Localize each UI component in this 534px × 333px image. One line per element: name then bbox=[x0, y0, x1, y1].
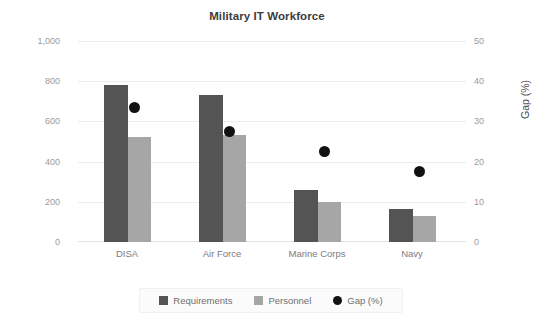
legend-swatch-personnel bbox=[254, 296, 263, 305]
chart-legend: Requirements Personnel Gap (%) bbox=[139, 288, 403, 313]
y-axis-right-tick: 20 bbox=[474, 157, 484, 167]
bar-personnel-marine-corps[interactable] bbox=[318, 202, 341, 242]
legend-item-personnel[interactable]: Personnel bbox=[254, 295, 311, 306]
y-axis-right-tick: 30 bbox=[474, 116, 484, 126]
y-axis-left-tick: 0 bbox=[55, 237, 60, 247]
y-axis-left-tick: 400 bbox=[45, 157, 60, 167]
legend-swatch-gap bbox=[333, 296, 342, 305]
bar-group-marine-corps bbox=[294, 41, 342, 242]
bar-requirements-air-force[interactable] bbox=[199, 95, 223, 242]
y-axis-left-tick: 600 bbox=[45, 116, 60, 126]
chart-container: Military IT Workforce Requirements or pe… bbox=[0, 0, 534, 333]
x-axis-tick-disa: DISA bbox=[80, 248, 174, 259]
gap-dot-air-force[interactable] bbox=[224, 126, 235, 137]
gap-dot-navy[interactable] bbox=[414, 166, 425, 177]
y-axis-right-tick: 50 bbox=[474, 36, 484, 46]
bar-group-disa bbox=[104, 41, 152, 242]
bar-requirements-disa[interactable] bbox=[104, 85, 128, 242]
y-axis-left-tick: 800 bbox=[45, 76, 60, 86]
plot-area bbox=[78, 41, 466, 242]
chart-title: Military IT Workforce bbox=[0, 10, 534, 22]
bar-requirements-marine-corps[interactable] bbox=[294, 190, 318, 242]
y-axis-right-tick: 0 bbox=[474, 237, 479, 247]
bar-group-navy bbox=[389, 41, 437, 242]
gap-dot-marine-corps[interactable] bbox=[319, 146, 330, 157]
legend-item-gap[interactable]: Gap (%) bbox=[333, 295, 382, 306]
y-axis-right-tick: 40 bbox=[474, 76, 484, 86]
legend-label-personnel: Personnel bbox=[268, 295, 311, 306]
legend-item-requirements[interactable]: Requirements bbox=[159, 295, 232, 306]
y-axis-right-tick: 10 bbox=[474, 197, 484, 207]
bar-personnel-navy[interactable] bbox=[413, 216, 436, 242]
bar-group-air-force bbox=[199, 41, 247, 242]
x-axis-tick-marine-corps: Marine Corps bbox=[270, 248, 364, 259]
x-axis-tick-navy: Navy bbox=[365, 248, 459, 259]
x-axis-tick-air-force: Air Force bbox=[175, 248, 269, 259]
y-axis-left-tick: 1,000 bbox=[37, 36, 60, 46]
bar-personnel-air-force[interactable] bbox=[223, 135, 246, 242]
bar-requirements-navy[interactable] bbox=[389, 209, 413, 242]
legend-swatch-requirements bbox=[159, 296, 168, 305]
bar-personnel-disa[interactable] bbox=[128, 137, 151, 242]
legend-label-requirements: Requirements bbox=[173, 295, 232, 306]
gap-dot-disa[interactable] bbox=[129, 102, 140, 113]
y-axis-left-tick: 200 bbox=[45, 197, 60, 207]
legend-label-gap: Gap (%) bbox=[347, 295, 382, 306]
y-axis-right-title: Gap (%) bbox=[519, 80, 531, 119]
